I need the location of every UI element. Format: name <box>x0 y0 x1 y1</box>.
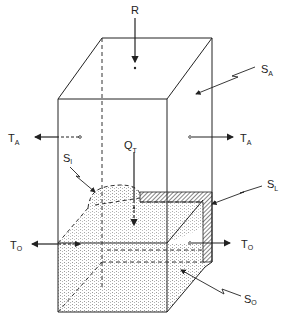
r-arrow <box>134 18 136 69</box>
s-l-pointer <box>212 186 262 204</box>
t-a-right-arrow <box>189 136 233 139</box>
box-diagram: R SA TA TA QT SI SL TO TO <box>0 0 289 326</box>
label-q-t: QT <box>124 139 138 154</box>
label-s-l: SL <box>267 178 278 192</box>
label-t-a-left: TA <box>8 132 20 146</box>
label-s-o: SO <box>244 293 257 306</box>
label-s-i: SI <box>63 152 72 165</box>
label-t-o-left: TO <box>10 239 23 252</box>
s-i-pointer <box>70 167 95 192</box>
label-t-o-right: TO <box>241 238 254 251</box>
label-r: R <box>131 4 139 16</box>
s-a-pointer <box>196 67 255 94</box>
label-s-a: SA <box>261 63 273 77</box>
label-t-a-right: TA <box>240 132 252 146</box>
